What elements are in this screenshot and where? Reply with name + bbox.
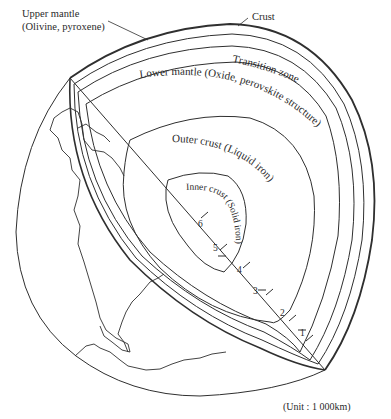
globe-outline xyxy=(16,78,325,396)
upper-mantle-leader xyxy=(108,21,148,40)
depth-ticks xyxy=(201,212,313,341)
unit-note: (Unit : 1 000km) xyxy=(283,400,351,413)
upper-mantle-label-line2: (Olivine, pyroxene) xyxy=(22,20,105,33)
leader-lines xyxy=(108,18,248,40)
tick-label-4: 4 xyxy=(237,265,242,275)
tick-label-1: 1 xyxy=(300,328,305,338)
upper-mantle-label-line1: Upper mantle xyxy=(22,7,105,20)
tick-label-3: 3 xyxy=(253,286,258,296)
depth-tick-labels: 1 2 3 4 5 6 xyxy=(198,219,305,338)
outer-core-label: Outer crust (Liquid iron) xyxy=(172,132,277,185)
diagram-svg: 1 2 3 4 5 6 Transition zone Lower mantle… xyxy=(0,0,391,419)
upper-mantle-label: Upper mantle (Olivine, pyroxene) xyxy=(22,7,105,33)
earth-structure-diagram: 1 2 3 4 5 6 Transition zone Lower mantle… xyxy=(0,0,391,419)
tick-label-6: 6 xyxy=(198,219,203,229)
inner-core-label: Inner crust (Solid iron) xyxy=(186,182,244,244)
tick-label-2: 2 xyxy=(280,308,285,318)
curved-labels: Transition zone Lower mantle (Oxide, per… xyxy=(139,52,325,244)
crust-label: Crust xyxy=(252,10,275,23)
tick-label-5: 5 xyxy=(213,243,218,253)
